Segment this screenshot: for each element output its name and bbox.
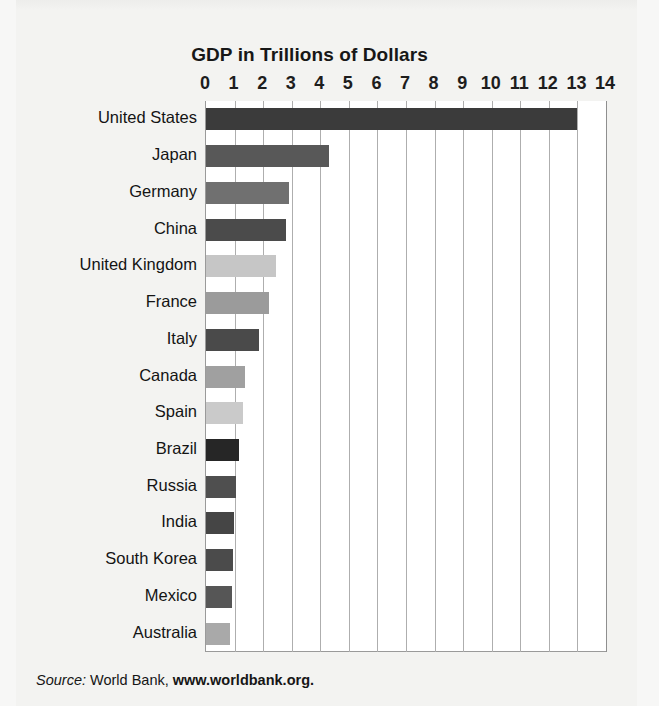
category-label: Canada [7,366,197,385]
x-axis-tick-labels: 01234567891011121314 [205,73,605,97]
bar [206,255,276,277]
bar [206,586,232,608]
bar [206,145,329,167]
category-label: Spain [7,402,197,421]
gridline [320,101,321,652]
x-tick-label: 7 [400,73,410,94]
category-label: United Kingdom [7,255,197,274]
category-label: South Korea [7,549,197,568]
bar [206,439,239,461]
gridline [492,101,493,652]
category-label: Japan [7,145,197,164]
x-tick-label: 5 [343,73,353,94]
bar [206,329,259,351]
bar [206,512,234,534]
bar [206,476,236,498]
gridline [463,101,464,652]
source-url[interactable]: www.worldbank.org. [173,672,314,688]
category-labels: United StatesJapanGermanyChinaUnited Kin… [5,101,197,652]
x-tick-label: 6 [371,73,381,94]
gridline [435,101,436,652]
gridline [606,101,607,652]
category-label: Brazil [7,439,197,458]
x-tick-label: 1 [229,73,239,94]
plot-area [205,101,606,652]
source-organization: World Bank, [90,672,169,688]
gridline [549,101,550,652]
category-label: Italy [7,329,197,348]
category-label: Australia [7,623,197,642]
category-label: France [7,292,197,311]
x-tick-label: 3 [286,73,296,94]
chart-page: GDP in Trillions of Dollars 012345678910… [0,0,659,706]
bar [206,366,245,388]
bar [206,219,286,241]
x-tick-label: 0 [200,73,210,94]
x-tick-label: 9 [457,73,467,94]
category-label: Germany [7,182,197,201]
x-tick-label: 14 [595,73,615,94]
bar [206,108,577,130]
gridline [377,101,378,652]
bar [206,292,269,314]
category-label: Mexico [7,586,197,605]
gridline [292,101,293,652]
x-tick-label: 4 [314,73,324,94]
source-note: Source: World Bank, www.worldbank.org. [36,672,314,688]
gridline [349,101,350,652]
x-tick-label: 8 [429,73,439,94]
gridline [520,101,521,652]
x-tick-label: 13 [566,73,586,94]
category-label: India [7,512,197,531]
bar [206,182,289,204]
x-tick-label: 12 [538,73,558,94]
bar [206,402,243,424]
category-label: United States [7,108,197,127]
paper-edge-right [637,0,659,706]
page-top-artifact [0,0,659,10]
gridline [577,101,578,652]
x-tick-label: 11 [510,73,529,94]
bar [206,623,230,645]
x-tick-label: 10 [481,73,501,94]
chart-title: GDP in Trillions of Dollars [0,44,659,66]
x-tick-label: 2 [257,73,267,94]
bar [206,549,233,571]
gridline [406,101,407,652]
source-prefix: Source: [36,672,86,688]
category-label: China [7,219,197,238]
category-label: Russia [7,476,197,495]
